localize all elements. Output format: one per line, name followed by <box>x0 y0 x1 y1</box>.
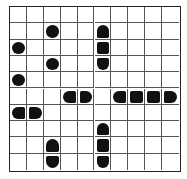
grid-cell[interactable] <box>44 89 61 105</box>
ship-segment-top-end[interactable] <box>97 25 110 37</box>
grid-cell[interactable] <box>95 89 112 105</box>
grid-cell[interactable] <box>10 137 27 153</box>
grid-cell[interactable] <box>78 137 95 153</box>
ship-segment-left-end[interactable] <box>63 91 76 103</box>
ship-segment-middle[interactable] <box>97 42 110 54</box>
grid-cell[interactable] <box>61 40 78 56</box>
grid-cell[interactable] <box>78 40 95 56</box>
grid-cell[interactable] <box>145 154 162 170</box>
grid-cell[interactable] <box>162 56 179 72</box>
grid-cell[interactable] <box>145 23 162 39</box>
grid-cell[interactable] <box>78 23 95 39</box>
grid-cell[interactable] <box>27 72 44 88</box>
grid-cell[interactable] <box>27 56 44 72</box>
grid-cell[interactable] <box>61 137 78 153</box>
grid-cell[interactable] <box>145 7 162 23</box>
grid-cell[interactable] <box>95 7 112 23</box>
grid-cell[interactable] <box>162 7 179 23</box>
grid-cell[interactable] <box>27 121 44 137</box>
grid-cell[interactable] <box>61 56 78 72</box>
grid-cell[interactable] <box>162 121 179 137</box>
grid-cell[interactable] <box>78 56 95 72</box>
grid-cell[interactable] <box>162 72 179 88</box>
grid-cell[interactable] <box>27 89 44 105</box>
ship-segment-bottom-end[interactable] <box>46 156 59 168</box>
grid-cell[interactable] <box>111 105 128 121</box>
ship-submarine[interactable] <box>46 58 59 70</box>
puzzle-grid[interactable] <box>9 6 181 172</box>
ship-submarine[interactable] <box>46 25 59 37</box>
grid-cell[interactable] <box>78 105 95 121</box>
grid-cell[interactable] <box>128 56 145 72</box>
ship-submarine[interactable] <box>12 42 25 54</box>
grid-cell[interactable] <box>162 23 179 39</box>
grid-cell[interactable] <box>145 72 162 88</box>
grid-cell[interactable] <box>61 121 78 137</box>
grid-cell[interactable] <box>128 137 145 153</box>
grid-cell[interactable] <box>128 40 145 56</box>
grid-cell[interactable] <box>111 7 128 23</box>
grid-cell[interactable] <box>111 154 128 170</box>
grid-cell[interactable] <box>111 23 128 39</box>
grid-cell[interactable] <box>10 7 27 23</box>
ship-segment-top-end[interactable] <box>46 139 59 151</box>
grid-cell[interactable] <box>44 40 61 56</box>
grid-cell[interactable] <box>10 23 27 39</box>
grid-cell[interactable] <box>78 72 95 88</box>
grid-cell[interactable] <box>145 137 162 153</box>
grid-cell[interactable] <box>95 105 112 121</box>
grid-cell[interactable] <box>78 154 95 170</box>
grid-cell[interactable] <box>95 72 112 88</box>
grid-cell[interactable] <box>61 7 78 23</box>
grid-cell[interactable] <box>111 56 128 72</box>
ship-segment-top-end[interactable] <box>97 123 110 135</box>
grid-cell[interactable] <box>128 154 145 170</box>
grid-cell[interactable] <box>111 137 128 153</box>
grid-cell[interactable] <box>128 7 145 23</box>
grid-cell[interactable] <box>10 56 27 72</box>
grid-cell[interactable] <box>44 7 61 23</box>
grid-cell[interactable] <box>27 154 44 170</box>
grid-cell[interactable] <box>162 40 179 56</box>
ship-segment-left-end[interactable] <box>12 107 25 119</box>
grid-cell[interactable] <box>162 154 179 170</box>
ship-segment-middle[interactable] <box>130 91 143 103</box>
grid-cell[interactable] <box>61 23 78 39</box>
grid-cell[interactable] <box>162 105 179 121</box>
ship-segment-middle[interactable] <box>147 91 160 103</box>
ship-segment-right-end[interactable] <box>29 107 42 119</box>
grid-cell[interactable] <box>145 105 162 121</box>
grid-cell[interactable] <box>27 40 44 56</box>
grid-cell[interactable] <box>111 40 128 56</box>
grid-cell[interactable] <box>44 121 61 137</box>
grid-cell[interactable] <box>27 137 44 153</box>
grid-cell[interactable] <box>145 56 162 72</box>
grid-cell[interactable] <box>111 121 128 137</box>
grid-cell[interactable] <box>128 72 145 88</box>
ship-segment-left-end[interactable] <box>113 91 126 103</box>
grid-cell[interactable] <box>145 40 162 56</box>
grid-cell[interactable] <box>128 23 145 39</box>
grid-cell[interactable] <box>61 105 78 121</box>
grid-cell[interactable] <box>44 72 61 88</box>
grid-cell[interactable] <box>44 105 61 121</box>
grid-cell[interactable] <box>162 137 179 153</box>
grid-cell[interactable] <box>10 121 27 137</box>
grid-cell[interactable] <box>78 121 95 137</box>
grid-cell[interactable] <box>128 105 145 121</box>
grid-cell[interactable] <box>111 72 128 88</box>
grid-cell[interactable] <box>61 154 78 170</box>
ship-segment-middle[interactable] <box>97 139 110 151</box>
grid-cell[interactable] <box>10 154 27 170</box>
grid-cell[interactable] <box>78 7 95 23</box>
grid-cell[interactable] <box>27 7 44 23</box>
ship-segment-right-end[interactable] <box>164 91 177 103</box>
grid-cell[interactable] <box>27 23 44 39</box>
grid-cell[interactable] <box>128 121 145 137</box>
grid-cell[interactable] <box>61 72 78 88</box>
grid-cell[interactable] <box>10 89 27 105</box>
grid-cell[interactable] <box>145 121 162 137</box>
